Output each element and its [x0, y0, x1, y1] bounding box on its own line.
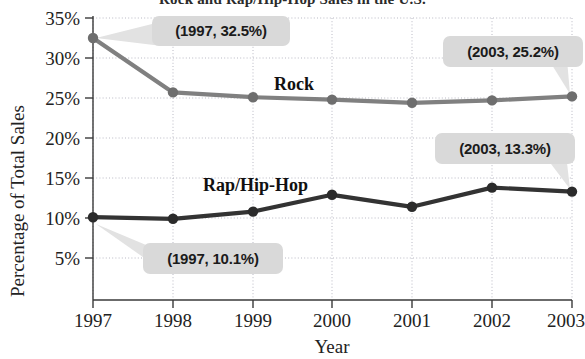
chart-title: Rock and Rap/Hip-Hop Sales in the U.S.: [0, 0, 585, 8]
rap-point-1999: [248, 206, 258, 216]
y-axis-title: Percentage of Total Sales: [7, 105, 28, 297]
series-rap-hip-hop: [88, 182, 577, 224]
y-tick-label-10: 10%: [45, 208, 80, 229]
series-label-rap-hip-hop: Rap/Hip-Hop: [203, 175, 308, 195]
x-axis-title: Year: [314, 336, 350, 357]
callout-rap-2003[interactable]: (2003, 13.3%): [435, 133, 575, 164]
rock-point-1998: [168, 87, 178, 97]
x-tick-label-2003: 2003: [547, 310, 585, 331]
rock-point-2002: [487, 95, 497, 105]
chart-container: Rock and Rap/Hip-Hop Sales in the U.S.: [0, 0, 585, 359]
series-label-rock: Rock: [274, 74, 314, 94]
y-tick-label-20: 20%: [45, 128, 80, 149]
chart-canvas: 35% 30% 25% 20% 15% 10% 5% Percentage of…: [0, 0, 585, 359]
callout-rap-2003-label: (2003, 13.3%): [459, 140, 551, 157]
rock-point-1997: [88, 33, 98, 43]
rap-point-2001: [407, 202, 417, 212]
rock-point-2000: [327, 94, 337, 104]
x-tick-label-2000: 2000: [313, 310, 351, 331]
rap-point-1998: [168, 214, 178, 224]
rap-point-2000: [327, 190, 337, 200]
y-tick-label-25: 25%: [45, 88, 80, 109]
x-tick-label-1998: 1998: [154, 310, 192, 331]
y-tick-label-15: 15%: [45, 168, 80, 189]
callout-rap-1997-label: (1997, 10.1%): [167, 250, 259, 267]
rock-point-1999: [248, 92, 258, 102]
callout-rock-1997-label: (1997, 32.5%): [175, 22, 267, 39]
y-axis: 35% 30% 25% 20% 15% 10% 5% Percentage of…: [7, 8, 93, 300]
x-tick-label-2002: 2002: [473, 310, 511, 331]
x-axis: 1997 1998 1999 2000 2001 2002 2003 Year: [74, 300, 585, 357]
rock-point-2003: [567, 91, 577, 101]
y-tick-label-35: 35%: [45, 8, 80, 29]
y-tick-label-5: 5%: [55, 248, 81, 269]
x-tick-label-1999: 1999: [234, 310, 272, 331]
x-tick-label-1997: 1997: [74, 310, 112, 331]
y-tick-label-30: 30%: [45, 48, 80, 69]
x-tick-label-2001: 2001: [393, 310, 431, 331]
callout-rock-2003[interactable]: (2003, 25.2%): [443, 36, 583, 67]
rap-point-1997: [88, 212, 98, 222]
rap-point-2002: [487, 182, 497, 192]
rap-point-2003: [567, 186, 577, 196]
callout-rap-1997[interactable]: (1997, 10.1%): [143, 243, 283, 274]
callout-rock-2003-label: (2003, 25.2%): [467, 43, 559, 60]
callout-rock-1997[interactable]: (1997, 32.5%): [152, 16, 290, 46]
rock-point-2001: [407, 98, 417, 108]
